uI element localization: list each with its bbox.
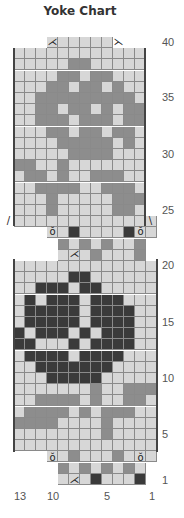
chart-cell	[102, 440, 113, 451]
chart-cell	[25, 82, 36, 93]
chart-cell	[36, 71, 47, 82]
chart-cell	[14, 160, 25, 171]
chart-cell	[14, 127, 25, 138]
stitch-symbol-icon: ŏ	[47, 452, 58, 463]
stitch-symbol-icon: \	[145, 215, 156, 226]
column-number-label: 5	[104, 490, 110, 502]
chart-cell	[124, 451, 135, 462]
chart-cell	[58, 429, 69, 440]
chart-cell	[135, 250, 146, 261]
row-number-label: 5	[162, 428, 168, 440]
chart-cell	[69, 149, 80, 160]
chart-cell	[36, 93, 47, 104]
chart-cell	[36, 283, 47, 294]
chart-cell	[25, 205, 36, 216]
stitch-symbol-icon: ŏ	[47, 226, 58, 237]
chart-cell	[124, 127, 135, 138]
chart-cell	[80, 205, 91, 216]
chart-cell	[14, 407, 25, 418]
chart-cell	[47, 339, 58, 350]
chart-cell	[69, 205, 80, 216]
chart-cell	[80, 93, 91, 104]
chart-border	[13, 48, 15, 226]
chart-cell	[113, 171, 124, 182]
chart-cell	[91, 373, 102, 384]
chart-cell	[25, 171, 36, 182]
chart-cell	[135, 362, 146, 373]
chart-cell	[36, 306, 47, 317]
chart-cell	[25, 93, 36, 104]
chart-cell	[58, 183, 69, 194]
chart-title: Yoke Chart	[0, 4, 160, 18]
chart-cell	[58, 440, 69, 451]
chart-cell	[36, 395, 47, 406]
chart-cell	[47, 104, 58, 115]
chart-cell	[91, 317, 102, 328]
chart-cell	[80, 194, 91, 205]
chart-cell	[25, 418, 36, 429]
chart-cell	[58, 306, 69, 317]
chart-cell	[80, 37, 91, 48]
chart-cell	[124, 227, 135, 238]
chart-cell	[47, 127, 58, 138]
chart-cell	[25, 183, 36, 194]
chart-cell	[47, 407, 58, 418]
chart-cell	[124, 216, 135, 227]
chart-cell	[135, 429, 146, 440]
chart-cell	[113, 362, 124, 373]
chart-cell	[47, 138, 58, 149]
chart-cell	[80, 216, 91, 227]
chart-cell	[58, 171, 69, 182]
chart-cell	[69, 37, 80, 48]
chart-cell	[91, 463, 102, 474]
chart-cell	[69, 395, 80, 406]
chart-cell	[36, 194, 47, 205]
chart-cell	[36, 440, 47, 451]
chart-cell	[113, 149, 124, 160]
chart-cell	[69, 261, 80, 272]
chart-cell	[80, 82, 91, 93]
chart-cell	[14, 328, 25, 339]
chart-cell	[124, 272, 135, 283]
chart-cell	[80, 295, 91, 306]
chart-cell	[58, 339, 69, 350]
chart-cell	[135, 239, 146, 250]
chart-cell	[69, 317, 80, 328]
chart-cell	[80, 59, 91, 70]
chart-cell	[25, 272, 36, 283]
chart-cell	[80, 250, 91, 261]
chart-cell	[124, 239, 135, 250]
chart-cell	[25, 384, 36, 395]
chart-cell	[124, 93, 135, 104]
chart-cell	[80, 451, 91, 462]
chart-cell	[47, 429, 58, 440]
chart-cell	[80, 138, 91, 149]
chart-cell	[91, 440, 102, 451]
chart-cell	[80, 272, 91, 283]
chart-cell	[47, 440, 58, 451]
chart-cell	[69, 306, 80, 317]
chart-cell	[91, 149, 102, 160]
chart-cell	[25, 440, 36, 451]
chart-cell	[14, 306, 25, 317]
chart-cell	[58, 205, 69, 216]
chart-cell	[69, 440, 80, 451]
chart-cell	[102, 127, 113, 138]
chart-cell	[113, 351, 124, 362]
chart-cell	[47, 362, 58, 373]
chart-cell	[135, 407, 146, 418]
chart-cell	[124, 463, 135, 474]
chart-cell	[102, 283, 113, 294]
chart-cell	[102, 295, 113, 306]
chart-cell	[102, 306, 113, 317]
chart-cell	[113, 239, 124, 250]
chart-cell	[14, 429, 25, 440]
chart-cell	[80, 48, 91, 59]
row-number-label: 20	[162, 259, 174, 271]
chart-cell	[47, 71, 58, 82]
chart-cell	[113, 463, 124, 474]
chart-cell	[36, 317, 47, 328]
chart-cell	[113, 250, 124, 261]
chart-cell	[69, 328, 80, 339]
chart-cell	[91, 127, 102, 138]
